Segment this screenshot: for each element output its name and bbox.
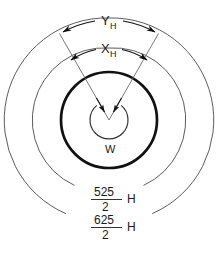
dimension-label-y-subscript: H — [110, 21, 117, 31]
second-circle-arc — [32, 48, 185, 186]
fraction-outer-denominator: 2 — [102, 228, 109, 242]
dimension-label-y: Y — [101, 13, 110, 28]
fraction-inner-unit: H — [127, 192, 136, 206]
fraction-inner-numerator: 525 — [94, 185, 114, 199]
center-label-w: W — [105, 143, 116, 155]
technical-diagram: Y H X H W 525 2 H 625 2 H — [0, 0, 219, 253]
fraction-inner-denominator: 2 — [102, 200, 109, 214]
dimension-label-x-subscript: H — [110, 49, 117, 59]
fraction-outer-unit: H — [127, 220, 136, 234]
center-arrow-left — [97, 98, 105, 112]
innermost-circle-arc — [90, 105, 128, 139]
dimension-arc-y-right — [123, 21, 155, 32]
dimension-arc-y — [63, 21, 95, 32]
center-arrow-right — [114, 98, 122, 112]
fraction-outer-numerator: 625 — [94, 213, 114, 227]
dimension-label-x: X — [101, 41, 110, 56]
diagram-canvas: Y H X H W 525 2 H 625 2 H — [0, 0, 219, 253]
